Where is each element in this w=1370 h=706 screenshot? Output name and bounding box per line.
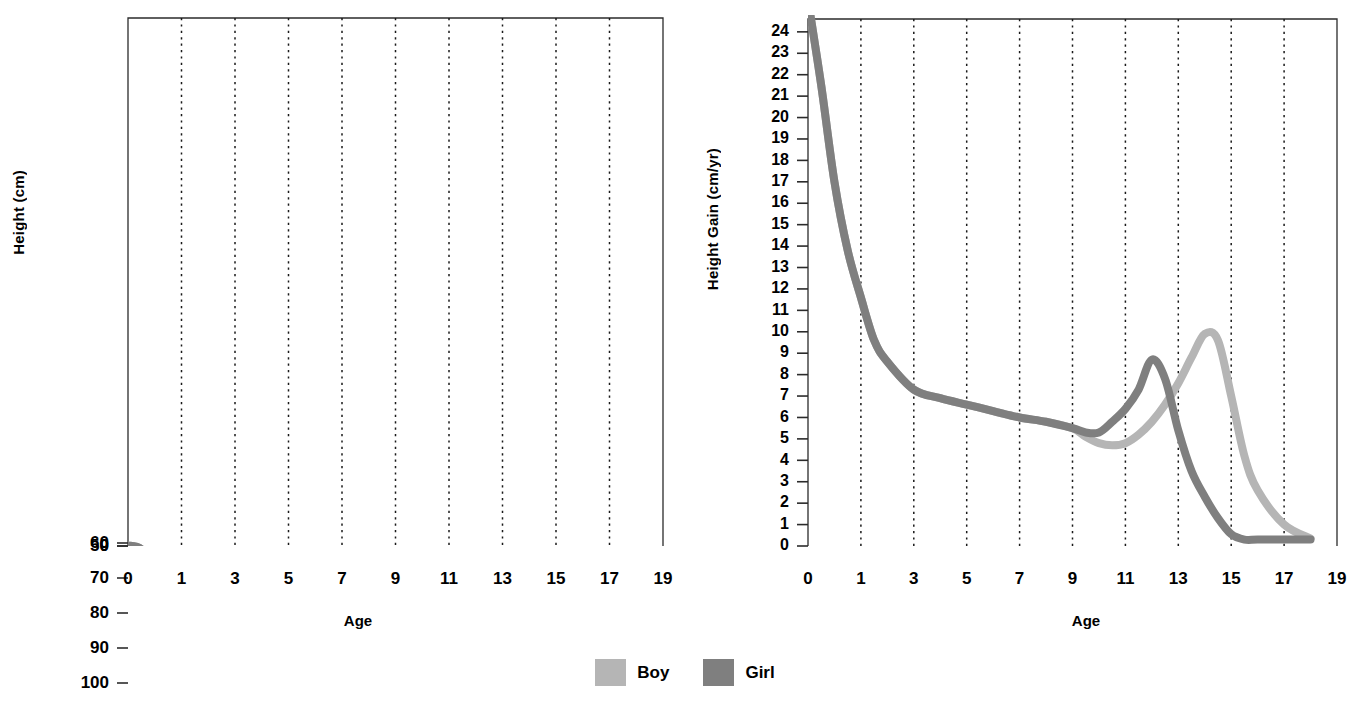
y-tick-label: 16 (757, 194, 789, 210)
legend-label-boy: Boy (637, 664, 669, 681)
legend-swatch-boy-icon (595, 659, 626, 686)
x-tick-label: 9 (1049, 570, 1097, 587)
x-tick-label: 7 (996, 570, 1044, 587)
y-tick-label: 3 (757, 473, 789, 489)
series-group (808, 0, 1311, 540)
y-tick-label: 21 (757, 87, 789, 103)
y-tick-label: 60 (63, 534, 109, 551)
y-tick-label: 8 (757, 366, 789, 382)
height-gain-chart-plot (690, 0, 1370, 706)
y-tick-label: 14 (757, 237, 789, 253)
y-tick-label: 15 (757, 216, 789, 232)
x-tick-label: 17 (1260, 570, 1308, 587)
x-tick-label: 19 (639, 570, 687, 587)
x-tick-label: 7 (318, 570, 366, 587)
x-tick-label: 5 (943, 570, 991, 587)
x-tick-label: 3 (890, 570, 938, 587)
series-line-girl (808, 0, 1311, 540)
y-tick-label: 20 (757, 109, 789, 125)
y-tick-label: 70 (63, 569, 109, 586)
y-tick-label: 5 (757, 430, 789, 446)
y-tick-label: 7 (757, 387, 789, 403)
x-tick-label: 19 (1313, 570, 1361, 587)
height-gain-chart-panel: Height Gain (cm/yr) Age 0123456789101112… (690, 0, 1370, 706)
x-tick-label: 15 (1207, 570, 1255, 587)
x-tick-label: 1 (837, 570, 885, 587)
y-tick-label: 6 (757, 409, 789, 425)
height-chart-panel: Height (cm) Age 050607080901001101201301… (0, 0, 690, 706)
y-tick-label: 4 (757, 452, 789, 468)
figure-legend: BoyGirl (0, 652, 1370, 692)
x-tick-label: 13 (479, 570, 527, 587)
series-line-boy (808, 0, 1311, 539)
x-tick-label: 0 (104, 570, 152, 587)
height-chart-plot (0, 0, 690, 706)
x-tick-label: 17 (586, 570, 634, 587)
y-tick-label: 19 (757, 130, 789, 146)
x-tick-label: 3 (211, 570, 259, 587)
x-tick-label: 1 (158, 570, 206, 587)
legend-entry-girl[interactable]: Girl (703, 659, 774, 686)
y-tick-label: 22 (757, 66, 789, 82)
x-tick-label: 15 (532, 570, 580, 587)
y-tick-label: 18 (757, 152, 789, 168)
x-tick-label: 0 (784, 570, 832, 587)
legend-entry-boy[interactable]: Boy (595, 659, 669, 686)
y-tick-label: 80 (63, 604, 109, 621)
x-tick-label: 5 (265, 570, 313, 587)
gridlines (861, 19, 1284, 546)
y-tick-label: 12 (757, 280, 789, 296)
y-tick-label: 24 (757, 23, 789, 39)
y-tick-label: 0 (757, 537, 789, 553)
y-tick-label: 10 (757, 323, 789, 339)
legend-swatch-girl-icon (703, 659, 734, 686)
y-tick-label: 1 (757, 516, 789, 532)
x-tick-label: 11 (1101, 570, 1149, 587)
legend-label-girl: Girl (745, 664, 774, 681)
y-tick-label: 23 (757, 44, 789, 60)
y-tick-label: 2 (757, 494, 789, 510)
gridlines (182, 18, 610, 546)
y-tick-label: 11 (757, 302, 789, 318)
y-axis-ticks (797, 32, 808, 546)
x-tick-label: 9 (372, 570, 420, 587)
x-tick-label: 11 (425, 570, 473, 587)
y-tick-label: 13 (757, 259, 789, 275)
y-tick-label: 17 (757, 173, 789, 189)
figure-root: Height (cm) Age 050607080901001101201301… (0, 0, 1370, 706)
y-tick-label: 9 (757, 344, 789, 360)
x-tick-label: 13 (1154, 570, 1202, 587)
